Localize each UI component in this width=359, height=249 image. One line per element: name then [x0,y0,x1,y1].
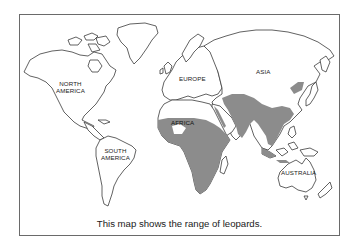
label-asia: ASIA [256,68,271,75]
philippines-shape [288,126,296,138]
new-zealand-shape [318,182,332,198]
label-australia: AUSTRALIA [281,169,316,176]
british-isles-shape [160,62,172,74]
label-africa: AFRICA [171,119,194,126]
arctic-islands-shape [68,33,110,52]
caribbean-islands-shape [98,120,110,124]
label-south-america: SOUTH AMERICA [101,147,130,161]
map-caption: This map shows the range of leopards. [19,218,340,229]
central-america-shape [84,122,104,140]
greenland-shape [117,23,158,64]
range-java [276,160,290,163]
label-europe: EUROPE [179,75,206,82]
new-guinea-shape [300,148,318,156]
madagascar-shape [220,156,228,174]
tasmania-shape [304,196,308,200]
label-north-america: NORTH AMERICA [56,80,85,94]
